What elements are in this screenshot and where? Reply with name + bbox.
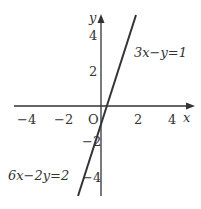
origin-label: O: [88, 112, 99, 127]
y-tick-label: −4: [82, 170, 101, 185]
y-tick-label: 4: [89, 28, 97, 43]
x-tick-label: −2: [54, 112, 73, 127]
equation-lower: 6x−2y=2: [8, 168, 69, 183]
x-axis-label: x: [183, 110, 191, 125]
y-axis-arrow-icon: [98, 14, 105, 23]
equation-upper: 3x−y=1: [134, 45, 187, 60]
y-axis-label: y: [88, 10, 97, 25]
x-tick-label: 2: [134, 112, 142, 127]
x-tick-label: −4: [17, 112, 36, 127]
y-tick-label: −2: [82, 134, 101, 149]
x-axis-arrow-icon: [186, 103, 195, 110]
coordinate-graph: y x O −4 −2 2 4 4 2 −2 −4 3x−y=1 6x−2y=2: [0, 0, 201, 209]
x-tick-label: 4: [168, 112, 176, 127]
y-tick-label: 2: [89, 64, 97, 79]
